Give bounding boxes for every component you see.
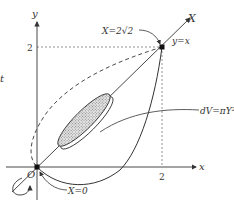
x-tick-label: 2 [159,172,165,182]
leader-endpoint [139,30,160,44]
left-edge-fragment: t [0,73,5,84]
disk-element [52,88,118,154]
volume-element-label: dV=πY²dX [200,106,234,116]
rotation-arrow-icon [13,178,30,195]
y-tick-label: 2 [27,43,33,53]
rotation-volume-diagram: y x 2 2 O X y=x X=2√2 X=0 dV=πY²dX t [0,0,234,211]
line-equation-label: y=x [171,36,190,46]
origin-marker [35,165,40,170]
y-axis-label: y [31,8,38,19]
leader-origin [40,172,67,190]
leader-dV [100,110,199,132]
rotated-axis-label: X [187,12,197,25]
startpoint-label: X=0 [67,186,88,196]
x-axis-label: x [199,161,205,172]
endpoint-label: X=2√2 [101,26,133,36]
end-point-marker [160,45,165,50]
origin-label: O [27,169,35,180]
